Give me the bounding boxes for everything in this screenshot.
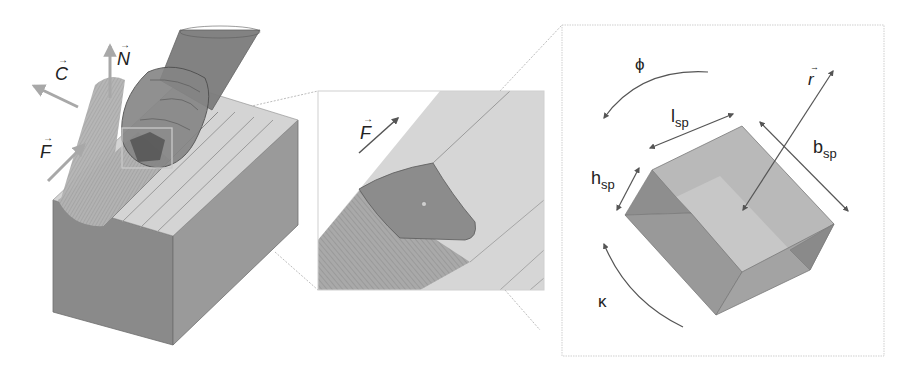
vector-n-arrow-glyph: →	[120, 39, 130, 50]
zoom-contact-point	[422, 202, 427, 207]
vector-c-label: C	[55, 64, 69, 84]
vector-c-arrow	[34, 86, 78, 107]
r-vector-arrow-glyph: →	[810, 62, 819, 72]
vector-n-label: N	[117, 49, 131, 69]
zoom-vector-f-arrow-glyph: →	[363, 113, 373, 124]
kappa-label: κ	[598, 292, 607, 311]
overview-panel: C → N → F →	[34, 26, 318, 345]
vector-f-label: F	[40, 142, 52, 162]
phi-label: ϕ	[635, 55, 645, 74]
connector-line-detail-top	[500, 25, 562, 91]
zoom-panel: F →	[318, 25, 562, 330]
connector-line-bottom	[275, 252, 318, 290]
vector-f-arrow-glyph: →	[43, 132, 53, 143]
zoom-vector-f-label: F	[360, 123, 372, 143]
figure-canvas: C → N → F → F →	[0, 0, 914, 372]
connector-line-top	[243, 91, 318, 108]
vector-c-arrow-glyph: →	[58, 54, 68, 65]
connector-line-detail-bottom	[505, 290, 540, 330]
detail-panel: ϕ lsp bsp hsp r → κ	[562, 25, 884, 356]
